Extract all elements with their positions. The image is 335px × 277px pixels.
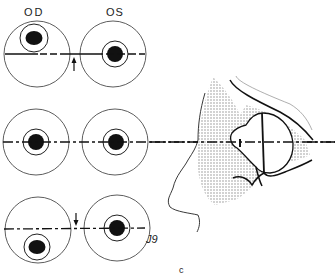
side-profile	[150, 76, 335, 232]
row-3-eyes	[4, 195, 150, 263]
diagram-figure: OD OS J9 c	[0, 0, 335, 277]
row-1-eyes	[4, 21, 146, 87]
eye-diagram-svg	[0, 0, 335, 277]
label-od: OD	[24, 6, 45, 18]
label-os: OS	[106, 6, 124, 18]
figure-caption: c	[179, 265, 184, 275]
artist-signature: J9	[146, 233, 158, 245]
